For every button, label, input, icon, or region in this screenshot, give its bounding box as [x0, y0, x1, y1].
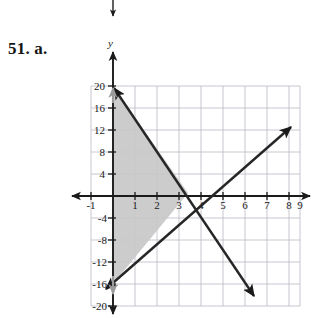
x-tick-label: 6	[242, 199, 248, 211]
y-axis-label: y	[107, 37, 113, 49]
coordinate-plane: y 20 16 12 8	[0, 0, 316, 318]
figure-root: 51. a.	[0, 0, 316, 318]
y-tick-label: -20	[92, 300, 107, 312]
y-tick-label: -4	[98, 212, 108, 224]
y-tick-label: 12	[94, 124, 105, 136]
x-tick-label: 7	[264, 199, 270, 211]
x-tick-label: 9	[297, 199, 303, 211]
y-tick-label: -16	[92, 278, 107, 290]
solution-region	[113, 86, 188, 284]
y-tick-label: 4	[100, 168, 106, 180]
y-tick-label: -8	[98, 234, 108, 246]
x-tick-label: -1	[86, 199, 95, 211]
x-tick-label: 3	[176, 199, 182, 211]
y-tick-label: 16	[94, 102, 106, 114]
y-tick-label: 8	[100, 146, 106, 158]
x-tick-label: 2	[154, 199, 160, 211]
y-tick-label: 20	[94, 80, 106, 92]
y-tick-label: -12	[92, 256, 107, 268]
x-tick-label: 5	[220, 199, 226, 211]
x-tick-label: 1	[132, 199, 138, 211]
x-tick-label: 8	[286, 199, 292, 211]
